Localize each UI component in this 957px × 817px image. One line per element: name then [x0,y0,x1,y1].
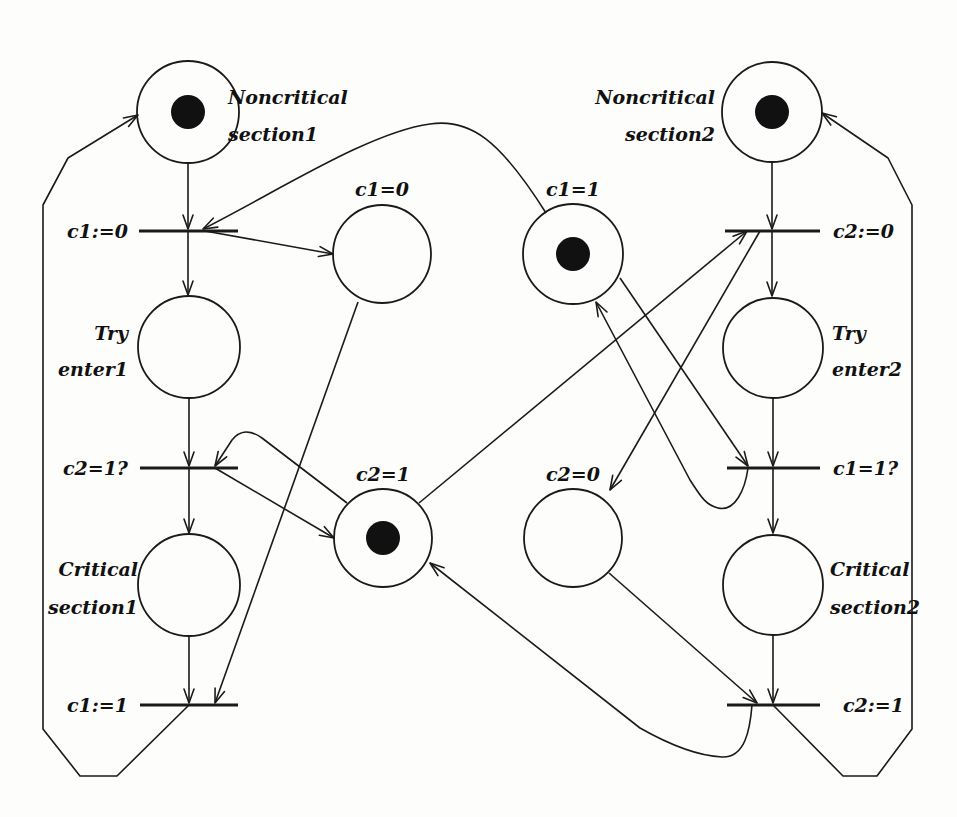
place-label: c2=0 [546,463,600,485]
arcs-layer [43,109,912,776]
token-icon [556,237,590,271]
transition-t2: c2=1? [63,457,238,479]
transition-t5: c1=1? [727,457,899,479]
arc-t6-to-c2_1 [427,559,752,757]
place-label: section1 [227,123,318,145]
place-label: Critical [830,558,909,580]
arc-t5-to-cs2 [768,468,778,533]
places-layer [137,61,823,636]
transition-label: c1=1? [833,457,899,479]
arc-try2-to-t5 [768,398,778,466]
place-label: Noncritical [594,86,715,108]
place-label: Try [832,322,868,344]
transition-label: c2=1? [63,457,129,479]
place-nc2 [722,62,822,162]
arc-c1_1-to-t5 [620,278,752,469]
transition-label: c1:=0 [67,220,128,242]
place-c1_0 [333,205,431,303]
place-label: Noncritical [227,86,348,108]
place-label: section2 [829,596,920,618]
arc-try1-to-t2 [184,398,194,466]
arc-t2-to-cs1 [184,468,194,533]
arc-nc2-to-t4 [767,162,777,229]
place-c2_1 [334,489,432,587]
place-cs2 [723,535,823,635]
place-label: c2=1 [356,463,410,485]
transition-label: c2:=1 [843,694,904,716]
petri-net-diagram: c1:=0c2=1?c1:=1c2:=0c1=1?c2:=1 Noncritic… [0,0,957,817]
token-icon [366,521,400,555]
arc-c2_0-to-t6 [609,573,760,707]
place-label: Critical [59,558,138,580]
arc-t4-to-try2 [767,231,777,296]
arc-cs2-to-t6 [768,635,778,703]
place-nc1 [137,61,239,163]
place-cs1 [138,534,240,636]
arc-t4-to-c2_0 [606,231,760,493]
token-icon [755,95,789,129]
transition-label: c2:=0 [833,220,894,242]
arc-t6-to-nc2 [773,109,912,776]
arc-t1-to-c1_0 [205,231,334,259]
place-try1 [138,296,240,398]
arc-t1-to-try1 [183,231,193,295]
place-label: c1=1 [546,178,600,200]
place-label: enter1 [58,358,128,380]
transition-label: c1:=1 [67,694,128,716]
place-label: c1=0 [355,178,409,200]
token-icon [171,95,205,129]
place-label: section2 [624,123,715,145]
diagram-svg: c1:=0c2=1?c1:=1c2:=0c1=1?c2:=1 Noncritic… [0,0,957,817]
arc-c1_0-to-t3 [210,302,358,705]
arc-t3-to-nc1 [43,111,189,776]
arc-c2_1-to-t4 [419,227,750,503]
place-c1_1 [523,204,623,304]
transition-t4: c2:=0 [725,220,894,242]
place-label: section1 [47,596,138,618]
place-label: enter2 [832,358,902,380]
arc-t5-to-c1_1 [592,300,748,509]
arc-nc1-to-t1 [183,163,193,229]
place-label: Try [94,322,130,344]
place-c2_0 [524,489,622,587]
place-try2 [723,298,823,398]
transition-t3: c1:=1 [67,694,238,716]
arc-cs1-to-t3 [184,636,194,703]
